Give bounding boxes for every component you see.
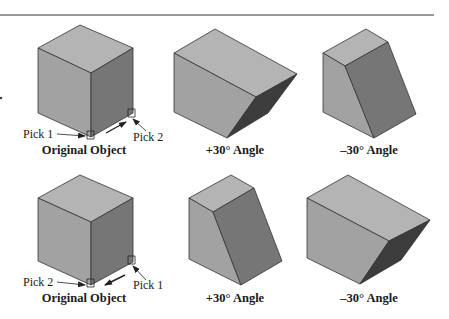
row2-plus30-shape (189, 175, 282, 285)
caption-plus30: +30° Angle (206, 143, 264, 158)
row1-original-cube (38, 25, 133, 137)
caption-plus30-row2: +30° Angle (206, 291, 264, 306)
leader-pick1-icon (57, 134, 85, 136)
figure-drawing (0, 0, 449, 319)
caption-original-row2: Original Object (42, 291, 126, 306)
caption-minus30-row2: –30° Angle (340, 291, 397, 306)
row1-minus30-shape (323, 29, 416, 138)
row2-minus30-shape (307, 175, 430, 284)
pick-label-right-row2: Pick 1 (133, 278, 163, 293)
figure: Pick 1 Pick 2 Original Object +30° Angle… (0, 0, 449, 319)
caption-original: Original Object (42, 143, 126, 158)
margin-mark (0, 97, 2, 99)
leader-pick2-row2-icon (57, 282, 85, 285)
row2-original-cube (38, 175, 133, 285)
caption-minus30: –30° Angle (340, 143, 397, 158)
direction-arrow-row2-icon (105, 275, 125, 285)
pick-label-right: Pick 2 (133, 130, 163, 145)
row1-plus30-shape (174, 29, 297, 138)
pick-label-left-row2: Pick 2 (23, 275, 53, 290)
pick-label-left: Pick 1 (23, 127, 53, 142)
